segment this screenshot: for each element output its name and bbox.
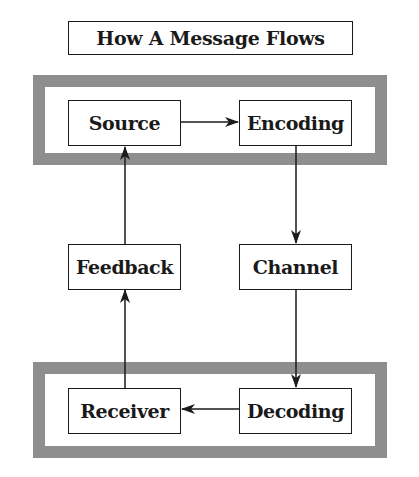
flow-arrows	[0, 0, 419, 477]
node-decoding: Decoding	[239, 388, 352, 434]
node-channel: Channel	[239, 244, 352, 290]
node-receiver: Receiver	[68, 388, 181, 434]
node-feedback: Feedback	[68, 244, 181, 290]
node-source: Source	[68, 100, 181, 146]
node-encoding: Encoding	[239, 100, 352, 146]
